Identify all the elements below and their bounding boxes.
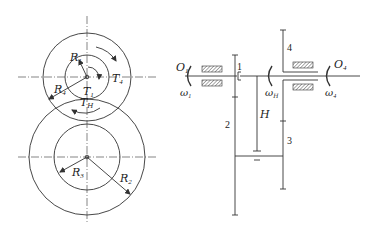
label-O4: O4: [334, 58, 347, 72]
label-omega-1: ω1: [180, 87, 191, 99]
label-O1: O1: [176, 61, 189, 75]
bearing-right-top: [293, 62, 313, 68]
label-carrier-H: H: [259, 108, 270, 121]
label-T4: T4: [112, 72, 123, 86]
left-view-labels: R1 R4 T1 T4 TH R3 R2: [53, 51, 132, 186]
planetary-gear-diagram: R1 R4 T1 T4 TH R3 R2: [0, 0, 374, 234]
bearing-right-bottom: [293, 84, 313, 90]
label-R3: R3: [71, 166, 84, 180]
label-R1: R1: [69, 51, 82, 65]
label-R4: R4: [53, 83, 66, 97]
label-gear-2: 2: [225, 119, 230, 130]
bearing-left-bottom: [202, 80, 222, 86]
label-omega-4: ω4: [325, 87, 336, 99]
label-gear-3: 3: [287, 135, 292, 146]
label-R2: R2: [119, 172, 132, 186]
right-view-labels: O1 ω1 ωH O4 ω4 H 1 2 3 4: [176, 42, 347, 146]
left-view: [18, 16, 157, 222]
bearing-left-top: [202, 66, 222, 72]
label-gear-4: 4: [287, 42, 292, 53]
label-gear-1: 1: [237, 61, 242, 72]
diagram-canvas: R1 R4 T1 T4 TH R3 R2: [0, 0, 374, 234]
label-omega-H: ωH: [265, 87, 279, 99]
